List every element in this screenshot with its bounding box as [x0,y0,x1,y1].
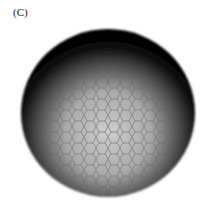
cell-pattern [22,30,195,197]
embryo-micrograph [0,0,207,214]
